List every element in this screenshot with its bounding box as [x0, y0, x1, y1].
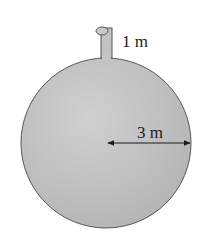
spout — [96, 27, 112, 58]
spout-height-label: 1 m — [122, 32, 148, 51]
tank-diagram: 3 m 1 m — [0, 0, 216, 237]
radius-label: 3 m — [137, 123, 163, 142]
